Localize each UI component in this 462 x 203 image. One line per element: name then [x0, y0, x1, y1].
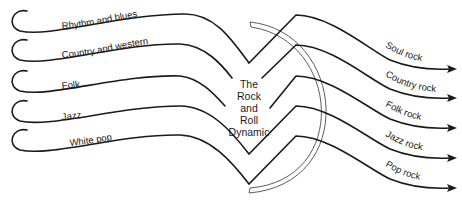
center-line-4: Roll: [240, 114, 258, 126]
center-line-1: The: [240, 78, 258, 90]
center-title: The Rock and Roll Dynamic: [229, 78, 270, 138]
rock-and-roll-dynamic-diagram: Rhythm and blues Country and western Fol…: [0, 0, 462, 203]
input-label-white-pop: White pop: [69, 131, 113, 148]
input-label-folk: Folk: [61, 78, 80, 91]
center-line-2: Rock: [237, 90, 262, 102]
input-label-country-and-western: Country and western: [61, 35, 149, 60]
input-label-rhythm-and-blues: Rhythm and blues: [61, 8, 138, 31]
center-line-5: Dynamic: [229, 126, 270, 138]
center-line-3: and: [240, 102, 258, 114]
input-label-jazz: Jazz: [61, 109, 82, 122]
